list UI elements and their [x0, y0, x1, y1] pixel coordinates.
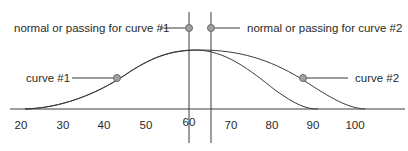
label-curve-2: curve #2 [355, 72, 399, 84]
label-normal-curve-1: normal or passing for curve #1 [14, 22, 169, 34]
tick-label-20: 20 [15, 119, 28, 131]
tick-label-50: 50 [140, 119, 153, 131]
tick-label-30: 30 [57, 119, 70, 131]
tick-label-90: 90 [307, 119, 320, 131]
tick-label-40: 40 [98, 119, 111, 131]
marker-normal-2 [208, 25, 215, 32]
marker-normal-1 [186, 25, 193, 32]
tick-label-60: 60 [183, 116, 196, 128]
curve-2-path [25, 50, 365, 109]
curve-diagram: normal or passing for curve #1 normal or… [0, 0, 408, 151]
marker-curve-1 [114, 75, 121, 82]
tick-label-70: 70 [225, 119, 238, 131]
tick-label-80: 80 [266, 119, 279, 131]
label-normal-curve-2: normal or passing for curve #2 [247, 22, 402, 34]
tick-label-100: 100 [345, 119, 364, 131]
label-curve-1: curve #1 [26, 72, 70, 84]
marker-curve-2 [300, 75, 307, 82]
